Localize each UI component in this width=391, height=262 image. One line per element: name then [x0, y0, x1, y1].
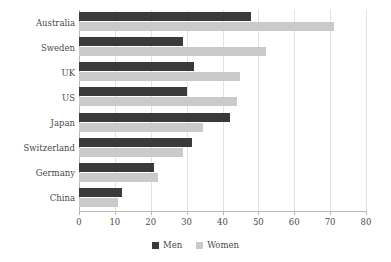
bar-men-switzerland: [79, 138, 192, 147]
category-label-japan: Japan: [3, 118, 75, 128]
tick-mark: [79, 211, 80, 215]
men-swatch-icon: [152, 242, 159, 249]
bar-group: [79, 161, 366, 186]
x-axis-tick-label: 10: [100, 216, 130, 228]
bar-group: [79, 111, 366, 136]
bar-men-australia: [79, 12, 251, 21]
x-axis-tick-labels: 01020304050607080: [0, 216, 391, 230]
bar-chart: AustraliaSwedenUKUSJapanSwitzerlandGerma…: [0, 0, 391, 262]
legend-item-women[interactable]: Women: [196, 240, 239, 250]
bar-men-germany: [79, 163, 154, 172]
category-label-switzerland: Switzerland: [3, 143, 75, 153]
x-axis-tick-label: 80: [351, 216, 381, 228]
category-label-sweden: Sweden: [3, 43, 75, 53]
bar-men-us: [79, 87, 187, 96]
bar-men-uk: [79, 62, 194, 71]
legend-label: Women: [207, 240, 239, 250]
bar-women-germany: [79, 173, 158, 182]
x-axis-tick-label: 70: [315, 216, 345, 228]
bar-men-china: [79, 188, 122, 197]
bar-group: [79, 60, 366, 85]
tick-mark: [258, 211, 259, 215]
category-label-australia: Australia: [3, 18, 75, 28]
bar-women-uk: [79, 72, 240, 81]
tick-mark: [223, 211, 224, 215]
bar-men-sweden: [79, 37, 183, 46]
plot-area: [79, 10, 366, 211]
bar-group: [79, 85, 366, 110]
tick-mark: [151, 211, 152, 215]
y-axis-category-labels: AustraliaSwedenUKUSJapanSwitzerlandGerma…: [0, 10, 75, 211]
bar-women-sweden: [79, 47, 266, 56]
bar-women-us: [79, 97, 237, 106]
bar-women-switzerland: [79, 148, 183, 157]
bar-group: [79, 186, 366, 211]
bar-women-china: [79, 198, 118, 207]
category-label-china: China: [3, 193, 75, 203]
category-label-germany: Germany: [3, 168, 75, 178]
category-label-us: US: [3, 93, 75, 103]
bar-women-japan: [79, 123, 203, 132]
bar-men-japan: [79, 113, 230, 122]
x-axis-tick-label: 0: [64, 216, 94, 228]
tick-mark: [187, 211, 188, 215]
x-axis-tick-label: 40: [208, 216, 238, 228]
legend-item-men[interactable]: Men: [152, 240, 182, 250]
chart-legend: MenWomen: [0, 240, 391, 250]
category-label-uk: UK: [3, 68, 75, 78]
x-axis-tick-label: 60: [279, 216, 309, 228]
tick-mark: [366, 211, 367, 215]
x-axis-tick-label: 50: [243, 216, 273, 228]
women-swatch-icon: [196, 242, 203, 249]
bar-group: [79, 136, 366, 161]
bar-group: [79, 10, 366, 35]
bar-group: [79, 35, 366, 60]
tick-mark: [330, 211, 331, 215]
tick-mark: [115, 211, 116, 215]
tick-mark: [294, 211, 295, 215]
x-axis-tick-label: 20: [136, 216, 166, 228]
gridline: [366, 10, 367, 211]
legend-label: Men: [163, 240, 182, 250]
bar-women-australia: [79, 22, 334, 31]
x-axis-tick-label: 30: [172, 216, 202, 228]
